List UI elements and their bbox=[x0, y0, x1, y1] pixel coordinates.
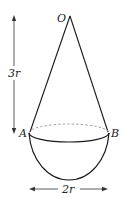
height-label: 3r bbox=[8, 67, 21, 80]
rim-back-dashed bbox=[29, 124, 109, 133]
width-label: 2r bbox=[61, 183, 75, 196]
point-label-b: B bbox=[110, 127, 119, 140]
cone-hemisphere-diagram: 3r O A B 2r bbox=[0, 0, 126, 198]
rim-front bbox=[29, 133, 109, 142]
cone bbox=[30, 16, 108, 132]
point-label-a: A bbox=[18, 127, 27, 140]
apex-label-o: O bbox=[57, 12, 66, 25]
hemisphere bbox=[29, 133, 109, 180]
